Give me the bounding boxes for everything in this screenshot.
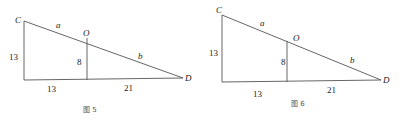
bottom-left-length: 13 xyxy=(47,84,57,94)
inner-vertical-length: 8 xyxy=(281,57,286,67)
figure-6 xyxy=(222,15,381,82)
point-d-label: D xyxy=(184,73,192,83)
bottom-line xyxy=(24,78,183,80)
point-d-label: D xyxy=(382,75,390,85)
segment-b-label: b xyxy=(138,51,143,61)
figure-5-labels: C a O 13 8 b D 13 21 图 5 xyxy=(9,15,192,114)
hypotenuse-line xyxy=(24,21,183,78)
point-c-label: C xyxy=(216,5,223,15)
inner-vertical-length: 8 xyxy=(77,57,82,67)
figure-5-caption: 图 5 xyxy=(83,106,97,114)
bottom-line xyxy=(222,80,381,82)
bottom-left-length: 13 xyxy=(253,89,263,99)
left-side-length: 13 xyxy=(9,52,19,62)
diagram-canvas: C a O 13 8 b D 13 21 图 5 C a O 13 8 b D … xyxy=(0,0,403,121)
figure-6-caption: 图 6 xyxy=(291,100,305,108)
figure-5 xyxy=(24,21,183,80)
segment-a-label: a xyxy=(56,20,61,30)
bottom-right-length: 21 xyxy=(124,83,133,93)
left-side-length: 13 xyxy=(209,48,219,58)
segment-a-label: a xyxy=(260,18,265,28)
hypotenuse-line xyxy=(222,15,381,80)
point-o-label: O xyxy=(293,33,300,43)
point-o-label: O xyxy=(83,28,90,38)
point-c-label: C xyxy=(15,15,22,25)
bottom-right-length: 21 xyxy=(327,85,336,95)
segment-b-label: b xyxy=(350,55,355,65)
